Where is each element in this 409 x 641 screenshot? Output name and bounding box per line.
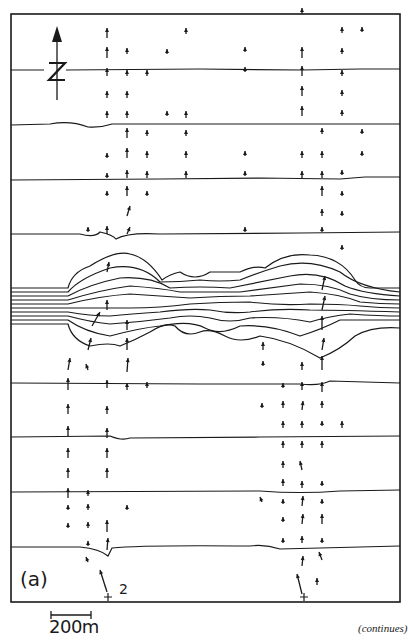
arrow-head-icon bbox=[105, 448, 109, 452]
arrow-head-icon bbox=[105, 226, 109, 230]
arrow-head-icon bbox=[105, 300, 109, 304]
arrow-head-icon bbox=[106, 538, 110, 542]
arrow-head-icon bbox=[66, 523, 70, 527]
arrow-head-icon bbox=[300, 151, 304, 155]
arrow-head-icon bbox=[315, 578, 319, 582]
arrow-head-icon bbox=[243, 227, 247, 231]
arrow-head-icon bbox=[281, 461, 285, 465]
arrow-head-icon bbox=[105, 380, 109, 384]
arrow-head-icon bbox=[126, 358, 130, 362]
arrow-head-icon bbox=[320, 128, 324, 132]
arrow-head-icon bbox=[281, 421, 285, 425]
arrow-head-icon bbox=[125, 505, 129, 509]
arrow-head-icon bbox=[66, 448, 70, 452]
arrow-head-icon bbox=[320, 171, 324, 175]
arrow-head-icon bbox=[340, 421, 344, 425]
arrow-head-icon bbox=[340, 191, 344, 195]
arrow-head-icon bbox=[66, 488, 70, 492]
arrow-head-icon bbox=[105, 406, 109, 410]
arrow-head-icon bbox=[320, 481, 324, 485]
vector-field-diagram bbox=[0, 0, 409, 641]
arrow-head-icon bbox=[340, 245, 344, 249]
arrow-head-icon bbox=[320, 514, 324, 518]
arrow-head-icon bbox=[145, 151, 149, 155]
arrow-head-icon bbox=[360, 129, 364, 133]
arrow-head-icon bbox=[105, 173, 109, 177]
arrow-head-icon bbox=[145, 70, 149, 74]
arrow-head-icon bbox=[125, 148, 129, 152]
arrow-head-icon bbox=[281, 499, 285, 503]
arrow-head-icon bbox=[261, 342, 265, 346]
arrow-head-icon bbox=[66, 426, 70, 430]
arrow-head-icon bbox=[261, 361, 265, 365]
arrow-head-icon bbox=[243, 47, 247, 51]
arrow-head-icon bbox=[300, 421, 304, 425]
arrow-head-icon bbox=[125, 338, 129, 342]
arrow-head-icon bbox=[125, 128, 129, 132]
arrow-head-icon bbox=[125, 91, 129, 95]
arrow-head-icon bbox=[105, 468, 109, 472]
arrow-head-icon bbox=[340, 48, 344, 52]
arrow-head-icon bbox=[281, 401, 285, 405]
arrow-head-icon bbox=[105, 428, 109, 432]
arrow-head-icon bbox=[184, 151, 188, 155]
arrow-head-icon bbox=[300, 47, 304, 51]
arrow-head-icon bbox=[125, 170, 129, 174]
continuation-note: (continues) bbox=[358, 622, 407, 634]
arrow-head-icon bbox=[281, 441, 285, 445]
arrow-head-icon bbox=[105, 111, 109, 115]
arrow-head-icon bbox=[86, 227, 90, 231]
arrow-head-icon bbox=[320, 499, 324, 503]
arrow-head-icon bbox=[300, 8, 304, 12]
panel-label: (a) bbox=[20, 567, 48, 591]
arrow-head-icon bbox=[340, 211, 344, 215]
arrow-head-icon bbox=[281, 538, 285, 542]
arrow-head-icon bbox=[320, 538, 324, 542]
arrow-head-icon bbox=[125, 111, 129, 115]
arrow-head-icon bbox=[320, 209, 324, 213]
arrow-head-icon bbox=[300, 441, 304, 445]
arrow-head-icon bbox=[184, 130, 188, 134]
arrow-head-icon bbox=[66, 468, 70, 472]
arrow-head-icon bbox=[340, 70, 344, 74]
arrow-head-icon bbox=[281, 479, 285, 483]
arrow-head-icon bbox=[105, 47, 109, 51]
arrow-head-icon bbox=[281, 517, 285, 521]
contour-lines bbox=[11, 253, 400, 358]
arrow-head-icon bbox=[320, 151, 324, 155]
arrow-head-icon bbox=[300, 66, 304, 70]
arrow-head-icon bbox=[66, 505, 70, 509]
arrow-head-icon bbox=[86, 504, 90, 508]
arrow-head-icon bbox=[125, 48, 129, 52]
arrow-head-icon bbox=[125, 70, 129, 74]
arrow-head-icon bbox=[105, 28, 109, 32]
arrow-head-icon bbox=[165, 49, 169, 53]
arrow-head-icon bbox=[66, 404, 70, 408]
arrow-head-icon bbox=[322, 296, 326, 300]
arrow-head-icon bbox=[300, 481, 304, 485]
arrow-head-icon bbox=[105, 191, 109, 195]
arrow-head-icon bbox=[360, 151, 364, 155]
arrow-head-icon bbox=[165, 111, 169, 115]
arrow-head-icon bbox=[300, 171, 304, 175]
arrow-head-icon bbox=[86, 522, 90, 526]
arrow-head-icon bbox=[260, 403, 264, 407]
arrow-head-icon bbox=[184, 171, 188, 175]
station-markers bbox=[104, 593, 308, 601]
arrow-head-icon bbox=[125, 186, 129, 190]
arrow-head-icon bbox=[340, 90, 344, 94]
arrow-head-icon bbox=[66, 378, 70, 382]
arrow-head-icon bbox=[105, 520, 109, 524]
arrow-head-icon bbox=[300, 106, 304, 110]
north-arrow-icon bbox=[49, 26, 65, 100]
arrow-head-icon bbox=[145, 130, 149, 134]
arrow-head-icon bbox=[243, 171, 247, 175]
arrow-head-icon bbox=[300, 86, 304, 90]
arrow-head-icon bbox=[184, 111, 188, 115]
arrow-head-icon bbox=[320, 441, 324, 445]
arrow-head-icon bbox=[145, 191, 149, 195]
arrow-head-icon bbox=[320, 227, 324, 231]
arrow-head-icon bbox=[145, 171, 149, 175]
arrow-head-icon bbox=[243, 151, 247, 155]
arrow-head-icon bbox=[340, 170, 344, 174]
